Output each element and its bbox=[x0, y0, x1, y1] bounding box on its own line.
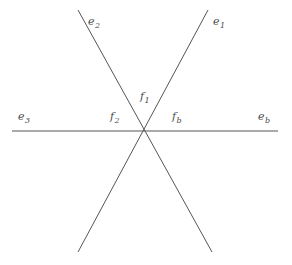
label-eb-subscript: b bbox=[265, 116, 271, 125]
label-e1: e1 bbox=[213, 16, 225, 30]
label-e3: e3 bbox=[18, 111, 30, 125]
label-e3-subscript: 3 bbox=[25, 116, 30, 125]
label-e2-base: e bbox=[88, 15, 95, 28]
label-f1-subscript: 1 bbox=[144, 96, 149, 105]
label-eb-base: e bbox=[258, 110, 265, 123]
diagram-canvas bbox=[0, 0, 292, 265]
label-fb: fb bbox=[172, 111, 182, 125]
lines-group bbox=[12, 10, 278, 252]
label-e2-subscript: 2 bbox=[95, 21, 100, 30]
label-e2: e2 bbox=[88, 16, 100, 30]
label-e3-base: e bbox=[18, 110, 25, 123]
label-f2: f2 bbox=[110, 111, 120, 125]
label-f2-subscript: 2 bbox=[114, 116, 119, 125]
label-fb-subscript: b bbox=[176, 116, 182, 125]
label-e1-subscript: 1 bbox=[220, 21, 225, 30]
label-eb: eb bbox=[258, 111, 270, 125]
geometry-diagram: e2e1f1f2fbe3eb bbox=[0, 0, 292, 265]
label-e1-base: e bbox=[213, 15, 220, 28]
label-f1: f1 bbox=[140, 91, 150, 105]
